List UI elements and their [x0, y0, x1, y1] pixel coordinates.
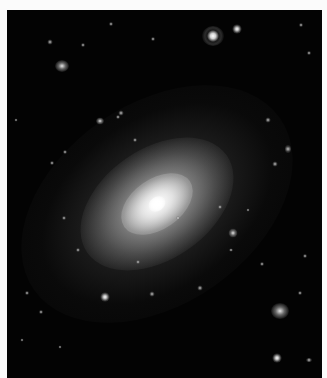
- speck-object: [306, 358, 312, 362]
- galaxy-object: [55, 60, 69, 72]
- speck-object: [21, 339, 24, 342]
- galaxy-photograph: [7, 10, 322, 378]
- galaxy-mid-halo: [56, 110, 258, 298]
- galaxy-core: [146, 193, 169, 215]
- galaxy-object: [229, 229, 238, 238]
- speck-object: [63, 150, 67, 154]
- speck-object: [298, 291, 302, 295]
- speck-object: [15, 119, 18, 122]
- speck-object: [76, 248, 80, 252]
- speck-object: [176, 216, 180, 220]
- star-object: [273, 354, 282, 363]
- speck-object: [229, 249, 233, 252]
- speck-object: [285, 145, 291, 153]
- speck-object: [133, 138, 137, 142]
- spiral-object: [202, 26, 224, 46]
- speck-object: [109, 22, 113, 26]
- speck-object: [48, 40, 53, 45]
- speck-object: [307, 51, 311, 55]
- speck-object: [150, 292, 155, 297]
- speck-object: [266, 118, 271, 123]
- galaxy-object: [96, 118, 104, 125]
- speck-object: [198, 286, 203, 291]
- speck-object: [273, 162, 278, 167]
- speck-object: [25, 291, 29, 295]
- speck-object: [59, 346, 62, 349]
- speck-object: [218, 205, 222, 209]
- speck-object: [50, 161, 54, 165]
- galaxy-object: [271, 303, 289, 319]
- star-object: [101, 293, 110, 302]
- star-object: [233, 25, 242, 34]
- speck-object: [62, 216, 66, 220]
- speck-object: [39, 310, 43, 314]
- galaxy-outer-halo: [7, 36, 322, 372]
- speck-object: [81, 43, 85, 47]
- speck-object: [299, 23, 303, 27]
- speck-object: [136, 260, 140, 264]
- galaxy-inner-halo: [110, 161, 204, 248]
- speck-object: [116, 115, 120, 119]
- speck-object: [260, 262, 264, 266]
- speck-object: [151, 37, 155, 41]
- speck-object: [303, 254, 307, 258]
- speck-object: [247, 209, 250, 212]
